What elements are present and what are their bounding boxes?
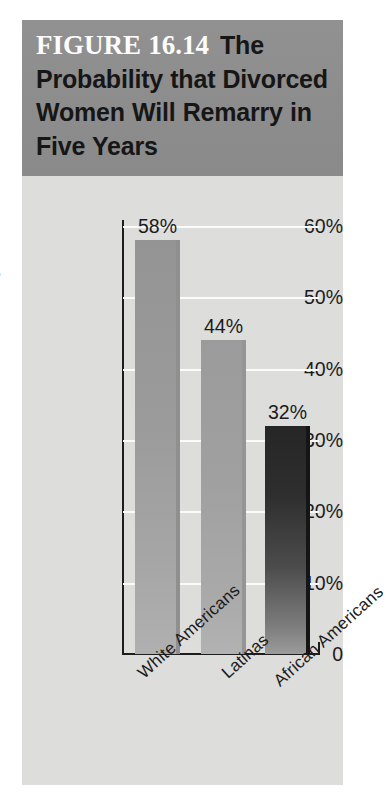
figure-title-banner: FIGURE 16.14The Probability that Divorce… <box>22 20 343 176</box>
figure-number-label: FIGURE 16.14 <box>36 30 220 60</box>
bar-value-label: 44% <box>204 315 243 340</box>
bar-edge <box>306 426 310 654</box>
figure-title: FIGURE 16.14The Probability that Divorce… <box>36 29 333 163</box>
bar-edge <box>176 240 180 654</box>
bar-fill <box>265 426 310 654</box>
bar: 32% <box>265 426 310 654</box>
y-axis-title: Percentage <box>0 259 1 351</box>
bar-value-label: 32% <box>268 401 307 426</box>
chart-panel: Percentage 010%20%30%40%50%60% 58%44%32%… <box>22 176 343 785</box>
bar-value-label: 58% <box>138 215 177 240</box>
bar: 58% <box>135 240 180 654</box>
bar-edge <box>242 340 246 654</box>
figure-card: FIGURE 16.14The Probability that Divorce… <box>22 20 343 785</box>
bar-fill <box>135 240 180 654</box>
